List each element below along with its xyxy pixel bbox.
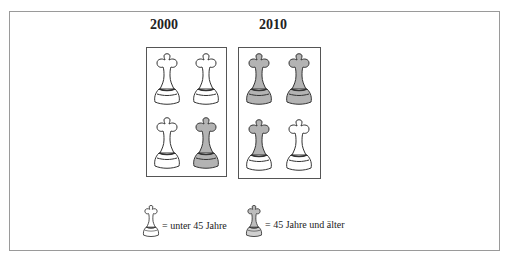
pawn-over45-icon	[191, 117, 221, 169]
year-label-2010: 2010	[259, 17, 287, 33]
pawn-over45-icon	[244, 53, 274, 105]
pawn-under45-icon	[284, 119, 314, 171]
pawn-under45-icon	[152, 53, 182, 105]
legend-over45-icon	[244, 205, 264, 237]
pawn-under45-icon	[152, 117, 182, 169]
legend-over45-label: = 45 Jahre und älter	[265, 219, 345, 230]
legend-under45-icon	[141, 205, 161, 237]
legend-under45-label: = unter 45 Jahre	[162, 220, 227, 231]
pawn-under45-icon	[191, 53, 221, 105]
pawn-over45-icon	[284, 53, 314, 105]
year-label-2000: 2000	[150, 17, 178, 33]
pawn-mixed-icon	[244, 119, 274, 171]
